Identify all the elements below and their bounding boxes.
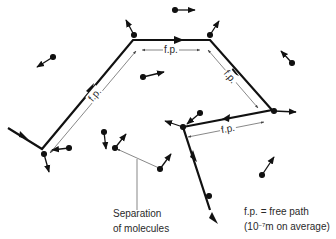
- molecule: [141, 72, 164, 79]
- legend-exponent: −7: [258, 222, 265, 228]
- molecule: [207, 194, 212, 199]
- path-arrow-icon: [19, 131, 28, 139]
- legend-line2-prefix: (10: [244, 221, 258, 232]
- molecule: [165, 121, 185, 129]
- legend-line2-suffix: m on average): [265, 221, 329, 232]
- free-path-label: f.p.: [163, 44, 179, 56]
- molecule: [37, 55, 55, 67]
- molecule: [52, 146, 71, 151]
- molecules: [37, 8, 296, 199]
- legend: f.p. = free path (10−7m on average): [244, 204, 330, 234]
- molecule: [260, 157, 274, 177]
- path-arrow-icon: [209, 212, 218, 224]
- molecule: [173, 8, 195, 13]
- separation-label-line1: Separation: [113, 206, 169, 221]
- legend-line1: f.p. = free path: [244, 204, 330, 219]
- legend-line2: (10−7m on average): [244, 219, 330, 234]
- molecule: [102, 130, 107, 149]
- path-arrow-icon: [222, 114, 230, 122]
- molecule: [126, 20, 136, 37]
- path-arrow-icon: [174, 36, 184, 44]
- separation-label: Separation of molecules: [113, 206, 169, 236]
- separation-label-line2: of molecules: [113, 221, 169, 236]
- molecule: [281, 51, 294, 65]
- molecule: [272, 109, 296, 114]
- molecule: [208, 21, 219, 37]
- molecule: [42, 152, 49, 172]
- molecule: [113, 134, 126, 150]
- molecule: [158, 154, 171, 171]
- molecule: [187, 111, 202, 124]
